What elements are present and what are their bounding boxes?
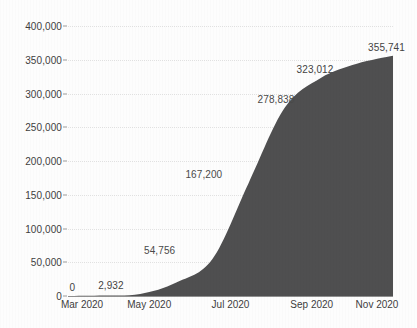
- y-axis: 050,000100,000150,000200,000250,000300,0…: [0, 0, 62, 328]
- x-axis-tick-label: May 2020: [127, 299, 171, 310]
- area-series-path: [68, 56, 393, 296]
- y-axis-tick-mark: [63, 262, 67, 263]
- y-axis-tick-label: 100,000: [4, 223, 62, 234]
- data-point-label: 54,756: [144, 245, 175, 256]
- y-axis-tick-mark: [63, 59, 67, 60]
- y-axis-tick-mark: [63, 26, 67, 27]
- x-axis-tick-label: Sep 2020: [290, 299, 333, 310]
- area-series: [68, 26, 393, 296]
- y-axis-tick-mark: [63, 161, 67, 162]
- y-axis-tick-mark: [63, 296, 67, 297]
- y-axis-tick-label: 200,000: [4, 156, 62, 167]
- y-axis-tick-label: 300,000: [4, 88, 62, 99]
- x-axis-tick-label: Nov 2020: [356, 299, 399, 310]
- data-point-label: 0: [69, 282, 75, 293]
- y-axis-tick-label: 400,000: [4, 21, 62, 32]
- x-axis-line: [68, 296, 393, 297]
- y-axis-tick-label: 50,000: [4, 257, 62, 268]
- y-axis-tick-mark: [63, 93, 67, 94]
- data-point-label: 167,200: [185, 169, 222, 180]
- y-axis-tick-mark: [63, 194, 67, 195]
- y-axis-tick-mark: [63, 127, 67, 128]
- y-axis-tick-mark: [63, 228, 67, 229]
- x-axis: Mar 2020May 2020Jul 2020Sep 2020Nov 2020: [0, 299, 417, 319]
- x-axis-tick-label: Mar 2020: [61, 299, 103, 310]
- data-point-label: 278,838: [258, 93, 295, 104]
- data-point-label: 323,012: [297, 63, 334, 74]
- x-axis-tick-label: Jul 2020: [212, 299, 250, 310]
- data-point-label: 355,741: [368, 41, 405, 52]
- y-axis-tick-label: 350,000: [4, 54, 62, 65]
- plot-area: 02,93254,756167,200278,838323,012355,741: [68, 26, 393, 296]
- y-axis-tick-label: 150,000: [4, 189, 62, 200]
- y-axis-tick-label: 250,000: [4, 122, 62, 133]
- cumulative-area-chart: 050,000100,000150,000200,000250,000300,0…: [0, 0, 417, 328]
- data-point-label: 2,932: [98, 280, 124, 291]
